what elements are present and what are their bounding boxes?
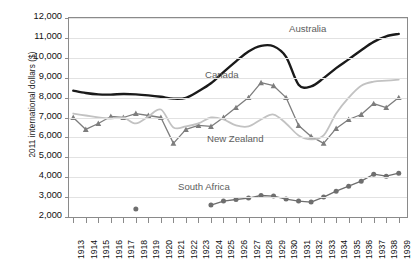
x-axis-tick-label: 1933	[328, 240, 337, 259]
data-point-marker	[221, 199, 226, 204]
gridline	[69, 38, 407, 39]
gridline	[69, 118, 407, 119]
x-axis-tick-label: 1932	[315, 240, 324, 259]
x-axis-tick-label: 1916	[115, 240, 124, 259]
x-axis-tick-label: 1917	[127, 240, 136, 259]
x-axis-tick-mark	[73, 218, 74, 223]
x-axis-tick-label: 1939	[403, 240, 412, 259]
x-axis-tick-label: 1929	[278, 240, 287, 259]
data-point-marker	[309, 200, 314, 205]
x-axis-tick-mark	[211, 218, 212, 223]
series-australia	[73, 34, 398, 99]
y-axis-tick-mark	[65, 98, 69, 99]
chart-container: 2011 international dollars ($) 12,00011,…	[0, 0, 420, 261]
data-point-marker	[334, 189, 339, 194]
x-axis-tick-label: 1920	[165, 240, 174, 259]
x-axis-tick-mark	[136, 218, 137, 223]
x-axis-tick-mark	[111, 218, 112, 223]
x-axis-tick-mark	[148, 218, 149, 223]
x-axis-tick-mark	[286, 218, 287, 223]
data-point-marker	[208, 203, 213, 208]
plot-area	[68, 17, 408, 218]
gridline	[69, 58, 407, 59]
x-axis-tick-mark	[236, 218, 237, 223]
y-axis-tick-mark	[65, 197, 69, 198]
y-axis-tick-mark	[65, 38, 69, 39]
y-axis-tick-label: 5,000	[18, 151, 62, 160]
x-axis-tick-mark	[261, 218, 262, 223]
x-axis-tick-mark	[198, 218, 199, 223]
series-label-canada: Canada	[205, 69, 239, 80]
x-axis-tick-label: 1925	[227, 240, 236, 259]
y-axis-tick-label: 4,000	[18, 171, 62, 180]
x-axis-tick-mark	[324, 218, 325, 223]
y-axis-tick-mark	[65, 78, 69, 79]
x-axis-tick-mark	[311, 218, 312, 223]
y-axis-tick-labels: 12,00011,00010,0009,0008,0007,0006,0005,…	[14, 0, 62, 261]
series-label-australia: Australia	[289, 23, 326, 34]
x-axis-tick-mark	[223, 218, 224, 223]
x-axis-tick-label: 1930	[290, 240, 299, 259]
data-point-marker	[371, 101, 377, 106]
y-axis-tick-mark	[65, 58, 69, 59]
x-axis-tick-label: 1936	[365, 240, 374, 259]
x-axis-tick-label: 1914	[90, 240, 99, 259]
y-axis-tick-mark	[65, 137, 69, 138]
x-axis-tick-mark	[274, 218, 275, 223]
y-axis-tick-mark	[65, 18, 69, 19]
x-axis: 1913191419151916191719181919192019211922…	[68, 218, 408, 261]
x-axis-tick-label: 1922	[190, 240, 199, 259]
x-axis-tick-label: 1918	[140, 240, 149, 259]
x-axis-tick-label: 1935	[353, 240, 362, 259]
x-axis-tick-mark	[349, 218, 350, 223]
x-axis-tick-label: 1928	[265, 240, 274, 259]
gridline	[69, 98, 407, 99]
x-axis-tick-label: 1913	[77, 240, 86, 259]
y-axis-tick-label: 11,000	[18, 32, 62, 41]
data-point-marker	[371, 172, 376, 177]
x-axis-tick-mark	[123, 218, 124, 223]
x-axis-tick-mark	[374, 218, 375, 223]
x-axis-tick-mark	[299, 218, 300, 223]
gridline	[69, 18, 407, 19]
x-axis-tick-label: 1934	[340, 240, 349, 259]
y-axis-tick-label: 9,000	[18, 72, 62, 81]
data-point-marker	[359, 179, 364, 184]
y-axis-tick-mark	[65, 157, 69, 158]
y-axis-tick-label: 6,000	[18, 131, 62, 140]
x-axis-tick-mark	[161, 218, 162, 223]
x-axis-tick-mark	[386, 218, 387, 223]
gridline	[69, 197, 407, 198]
x-axis-tick-label: 1938	[390, 240, 399, 259]
x-axis-tick-label: 1921	[177, 240, 186, 259]
x-axis-tick-mark	[86, 218, 87, 223]
x-axis-tick-mark	[249, 218, 250, 223]
data-point-marker	[133, 207, 138, 212]
y-axis-tick-label: 12,000	[18, 12, 62, 21]
x-axis-tick-label: 1926	[240, 240, 249, 259]
y-axis-tick-label: 2,000	[18, 211, 62, 220]
y-axis-tick-mark	[65, 118, 69, 119]
x-axis-tick-mark	[361, 218, 362, 223]
x-axis-tick-mark	[98, 218, 99, 223]
data-point-marker	[95, 121, 101, 126]
data-point-marker	[296, 199, 301, 204]
y-axis-tick-label: 7,000	[18, 112, 62, 121]
y-axis-tick-mark	[65, 177, 69, 178]
x-axis-tick-label: 1924	[215, 240, 224, 259]
y-axis-tick-label: 3,000	[18, 191, 62, 200]
x-axis-tick-mark	[399, 218, 400, 223]
gridline	[69, 157, 407, 158]
x-axis-tick-mark	[173, 218, 174, 223]
x-axis-tick-label: 1915	[102, 240, 111, 259]
x-axis-tick-label: 1923	[202, 240, 211, 259]
data-point-marker	[396, 171, 401, 176]
x-axis-tick-label: 1927	[253, 240, 262, 259]
x-axis-tick-label: 1937	[378, 240, 387, 259]
data-point-marker	[346, 184, 351, 189]
y-axis-tick-label: 8,000	[18, 92, 62, 101]
x-axis-tick-mark	[336, 218, 337, 223]
series-label-south-africa: South Africa	[178, 181, 230, 192]
x-axis-tick-label: 1919	[152, 240, 161, 259]
data-point-marker	[296, 123, 302, 128]
